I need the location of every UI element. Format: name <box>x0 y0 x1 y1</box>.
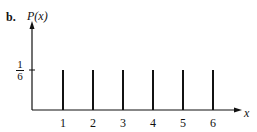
y-axis-label: P(x) <box>27 9 48 24</box>
panel-label: b. <box>6 10 16 25</box>
y-tick-denominator: 6 <box>17 70 23 82</box>
x-tick-label-5: 5 <box>177 116 189 131</box>
x-tick-label-3: 3 <box>117 116 129 131</box>
x-axis-arrow-icon <box>234 108 242 113</box>
y-tick-label: 1 6 <box>15 59 25 82</box>
x-tick-label-6: 6 <box>207 116 219 131</box>
bars <box>63 70 213 110</box>
x-axis-label: x <box>244 106 249 121</box>
x-tick-label-1: 1 <box>57 116 69 131</box>
x-tick-label-4: 4 <box>147 116 159 131</box>
x-tick-label-2: 2 <box>87 116 99 131</box>
y-tick-numerator: 1 <box>17 58 23 70</box>
